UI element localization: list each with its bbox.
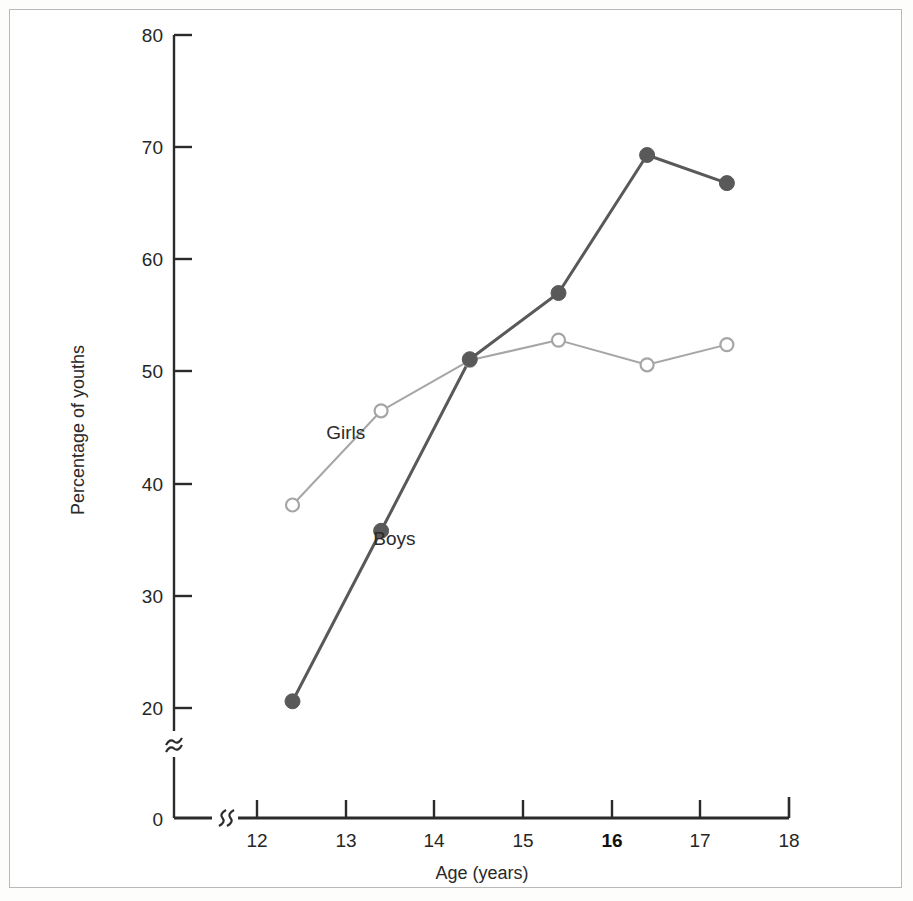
- y-axis-break-icon: [166, 738, 182, 745]
- y-tick-label-20: 20: [142, 698, 163, 719]
- y-tick-marks: [174, 35, 192, 708]
- y-axis-title: Percentage of youths: [68, 345, 88, 515]
- y-tick-label-70: 70: [142, 137, 163, 158]
- y-tick-label-30: 30: [142, 586, 163, 607]
- x-tick-label-12: 12: [246, 830, 267, 851]
- y-axis-break-icon-2: [166, 745, 182, 752]
- x-axis-break-icon: [219, 810, 226, 826]
- figure-canvas: 80 70 60 50 40 30 20 0 Percentage of you…: [0, 0, 913, 901]
- x-tick-label-15: 15: [512, 830, 533, 851]
- x-tick-label-17: 17: [689, 830, 710, 851]
- y-tick-label-0: 0: [152, 809, 163, 830]
- x-axis-title: Age (years): [435, 863, 528, 883]
- y-tick-label-60: 60: [142, 249, 163, 270]
- series-label-boys: Boys: [373, 528, 415, 549]
- x-tick-label-18: 18: [778, 830, 799, 851]
- x-axis-break-icon-2: [227, 810, 234, 826]
- line-chart: 80 70 60 50 40 30 20 0 Percentage of you…: [0, 0, 913, 901]
- x-tick-label-13: 13: [335, 830, 356, 851]
- y-tick-label-50: 50: [142, 361, 163, 382]
- x-tick-label-14: 14: [423, 830, 445, 851]
- x-tick-marks: [257, 797, 789, 818]
- x-tick-label-16: 16: [601, 830, 622, 851]
- series-label-girls: Girls: [326, 422, 365, 443]
- y-tick-label-80: 80: [142, 25, 163, 46]
- y-tick-label-40: 40: [142, 474, 163, 495]
